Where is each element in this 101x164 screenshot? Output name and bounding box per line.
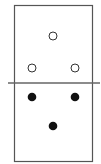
filled-pip-icon bbox=[28, 93, 37, 102]
domino-tile bbox=[0, 0, 101, 164]
hollow-pip-icon bbox=[49, 32, 57, 40]
hollow-pip-icon bbox=[71, 64, 79, 72]
filled-pip-icon bbox=[49, 122, 58, 131]
filled-pip-icon bbox=[71, 93, 80, 102]
hollow-pip-icon bbox=[28, 64, 36, 72]
